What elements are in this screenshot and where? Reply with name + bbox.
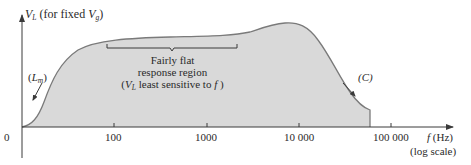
tick-label-1000: 1000 — [195, 131, 217, 143]
x-axis-label: f (Hz) — [427, 131, 453, 143]
tick-label-100000: 100 000 — [373, 131, 409, 143]
tick-label-10000: 10 000 — [284, 131, 314, 143]
y-axis-label: VL (for fixed Vg) — [25, 8, 103, 24]
x-label-unit: (Hz) — [430, 131, 453, 143]
flat-line-3-close: ) — [217, 78, 223, 90]
lm-label: (Lm) — [28, 71, 47, 87]
flat-line-2: response region — [110, 66, 235, 78]
flat-line-1: Fairly flat — [110, 54, 235, 66]
x-axis-scale-note: (log scale) — [410, 145, 456, 157]
tick-label-100: 100 — [105, 131, 122, 143]
lm-close: ) — [43, 71, 47, 83]
y-label-vg: V — [88, 7, 95, 21]
y-label-close: ) — [99, 7, 103, 21]
flat-region-annotation: Fairly flat response region (VL least se… — [110, 54, 235, 94]
y-label-text: (for fixed — [37, 7, 89, 21]
flat-line-3-mid: least sensitive to — [136, 78, 214, 90]
flat-line-3-v: V — [125, 78, 132, 90]
c-label: (C) — [358, 71, 373, 83]
origin-label: 0 — [4, 131, 10, 143]
flat-line-3: (VL least sensitive to f ) — [110, 78, 235, 94]
